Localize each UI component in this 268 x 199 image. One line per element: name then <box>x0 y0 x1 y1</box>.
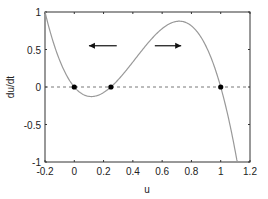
y-tick-label: 0 <box>35 82 41 93</box>
equilibrium-dot <box>108 84 113 89</box>
x-tick-label: 0.6 <box>155 166 169 177</box>
x-tick-label: 0.8 <box>184 166 198 177</box>
y-axis-label: du/dt <box>5 76 16 98</box>
x-tick-label: 1.2 <box>243 166 257 177</box>
arrow-right-icon <box>155 43 181 49</box>
chart-canvas: -0.200.20.40.60.811.2 -1-0.500.51 u du/d… <box>0 0 268 199</box>
x-tick-label: 0.2 <box>97 166 111 177</box>
x-tick-label: 1 <box>218 166 224 177</box>
x-tick-label: 0.4 <box>126 166 140 177</box>
y-tick-label: 0.5 <box>27 45 41 56</box>
equilibrium-dot <box>218 84 223 89</box>
y-tick-label: 1 <box>35 7 41 18</box>
y-tick-label: -0.5 <box>24 120 42 131</box>
x-tick-label: 0 <box>72 166 78 177</box>
y-axis-ticks: -1-0.500.51 <box>24 7 250 168</box>
y-tick-label: -1 <box>32 157 41 168</box>
arrow-annotations <box>89 43 181 49</box>
equilibrium-dot <box>72 84 77 89</box>
x-axis-ticks: -0.200.20.40.60.811.2 <box>36 12 257 177</box>
x-axis-label: u <box>144 184 150 195</box>
arrow-left-icon <box>89 43 117 49</box>
